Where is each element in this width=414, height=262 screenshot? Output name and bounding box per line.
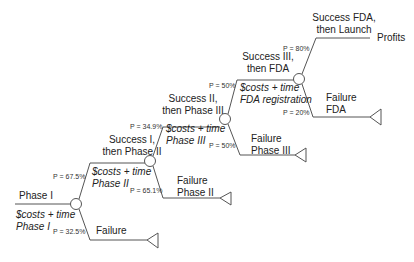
branch-label: then Phase III bbox=[160, 105, 226, 117]
branch-label: Failure bbox=[326, 92, 357, 104]
branch-label: Success FDA, bbox=[311, 12, 377, 24]
branch-label: then FDA bbox=[240, 63, 296, 75]
branch-label: Success II, bbox=[163, 93, 223, 105]
branch-label: FDA bbox=[326, 104, 346, 116]
cost-label: Phase III bbox=[166, 135, 205, 147]
outcome-label: Profits bbox=[377, 32, 405, 44]
branch-label: Success I, bbox=[97, 134, 167, 146]
probability-label: P = 34.9% bbox=[130, 123, 162, 131]
probability-label: P = 67.5% bbox=[53, 173, 85, 181]
branch-label: then Phase II bbox=[95, 146, 169, 158]
terminal-failure-icon bbox=[147, 233, 158, 248]
cost-label: $costs + time bbox=[16, 209, 75, 221]
probability-label: P = 65.1% bbox=[130, 187, 162, 195]
probability-label: P = 80% bbox=[283, 45, 310, 53]
probability-label: P = 32.5% bbox=[53, 228, 85, 236]
terminal-failure-icon bbox=[370, 109, 381, 125]
branch-label: Phase II bbox=[177, 187, 214, 199]
probability-label: P = 50% bbox=[209, 142, 236, 150]
cost-label: FDA registration bbox=[240, 94, 312, 106]
branch-label: Failure bbox=[177, 175, 208, 187]
branch-label: Failure bbox=[96, 225, 127, 237]
branch-label: Failure bbox=[251, 133, 282, 145]
branch-label: Phase III bbox=[251, 145, 290, 157]
root-label: Phase I bbox=[19, 190, 53, 202]
cost-label: $costs + time bbox=[92, 166, 151, 178]
chance-node-phase1 bbox=[71, 199, 82, 210]
probability-label: P = 20% bbox=[283, 109, 310, 117]
terminal-failure-icon bbox=[220, 192, 231, 205]
probability-label: P = 50% bbox=[209, 82, 236, 90]
terminal-failure-icon bbox=[295, 148, 306, 162]
cost-label: $costs + time bbox=[166, 123, 225, 135]
cost-label: $costs + time bbox=[240, 82, 299, 94]
cost-label: Phase II bbox=[92, 178, 129, 190]
branch-label: then Launch bbox=[311, 24, 377, 36]
cost-label: Phase I bbox=[16, 221, 50, 233]
